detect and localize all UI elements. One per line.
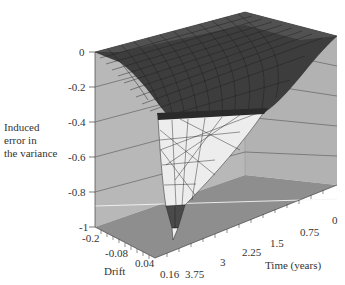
time-tick-label: 2.25 — [242, 246, 261, 258]
drift-axis-title: Drift — [104, 265, 125, 277]
drift-tick-label: 0.04 — [135, 257, 154, 269]
z-axis-title-line3: the variance — [4, 147, 57, 160]
drift-tick-label: 0.16 — [160, 268, 179, 280]
time-tick-label: 0 — [332, 214, 338, 226]
z-tick-label: 0 — [79, 46, 85, 58]
z-tick-label: -0.6 — [68, 151, 85, 163]
z-tick-label: -0.4 — [68, 116, 85, 128]
time-tick-label: 3.75 — [185, 268, 204, 280]
time-tick-label: 1.5 — [270, 237, 284, 249]
z-axis-title-line2: error in — [4, 134, 57, 147]
z-axis-title: Induced error in the variance — [4, 121, 57, 160]
time-tick-label: 0.75 — [300, 226, 319, 238]
z-tick-label: -0.2 — [68, 81, 85, 93]
z-ticks — [89, 52, 95, 227]
z-axis-title-line1: Induced — [4, 121, 57, 134]
time-tick-label: 3 — [220, 256, 226, 268]
z-tick-label: -0.8 — [68, 186, 85, 198]
time-axis-title: Time (years) — [265, 259, 321, 271]
drift-tick-label: -0.08 — [105, 247, 128, 259]
drift-tick-label: -0.2 — [82, 232, 99, 244]
